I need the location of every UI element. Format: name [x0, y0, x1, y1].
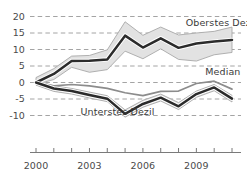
y-tick-label-15: 15: [3, 27, 25, 38]
band-oberstes-dezil: [36, 22, 232, 85]
x-tick-label-2000: 2000: [16, 160, 56, 171]
y-tick-label-10: 10: [3, 44, 25, 55]
decile-bands: [36, 22, 232, 117]
y-tick-label-0: 0: [3, 77, 25, 88]
x-tick-label-2009: 2009: [176, 160, 216, 171]
x-axis: [30, 148, 241, 153]
y-tick-label-minus5: -5: [3, 93, 25, 104]
y-tick-label-minus10: -10: [3, 110, 25, 121]
chart-container: 20 15 10 5 0 -5 -10 2000 2003 2006 2009 …: [0, 0, 247, 183]
series-label-unterstes-dezil: Unterstes Dezil: [81, 106, 155, 117]
y-tick-label-5: 5: [3, 60, 25, 71]
y-tick-label-20: 20: [3, 11, 25, 22]
series-label-oberstes-dezil: Oberstes Dezil: [186, 17, 247, 28]
x-tick-label-2006: 2006: [123, 160, 163, 171]
series-label-median: Median: [205, 66, 240, 77]
x-tick-label-2003: 2003: [69, 160, 109, 171]
